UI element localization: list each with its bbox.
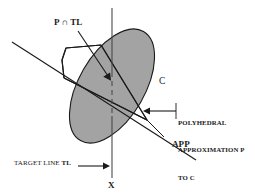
figure-canvas: P ∩ TL C APP POLYHEDRAL APPROXIMATION P … <box>0 0 255 196</box>
label-convex-set-c: C <box>159 76 165 87</box>
label-p-intersection-tl: P ∩ TL <box>54 17 82 27</box>
label-polyhedral-line-1: POLYHEDRAL <box>178 118 245 127</box>
leader-arrow-polyhedral <box>143 103 176 119</box>
label-target-line: TARGET LINE TL <box>14 160 71 168</box>
polygon-P-facet-topleft <box>62 48 66 60</box>
label-polyhedral-approximation: POLYHEDRAL APPROXIMATION P TO C <box>178 100 245 196</box>
label-polyhedral-line-2: APPROXIMATION P <box>178 145 245 154</box>
label-axis-x: X <box>108 180 115 190</box>
label-polyhedral-line-3: TO C <box>178 173 245 182</box>
label-target-line-abbrev: TL <box>62 159 72 167</box>
polygon-P-facet-top <box>66 45 101 48</box>
leader-arrow-target-line <box>78 163 110 170</box>
label-target-line-text: TARGET LINE <box>14 159 62 167</box>
